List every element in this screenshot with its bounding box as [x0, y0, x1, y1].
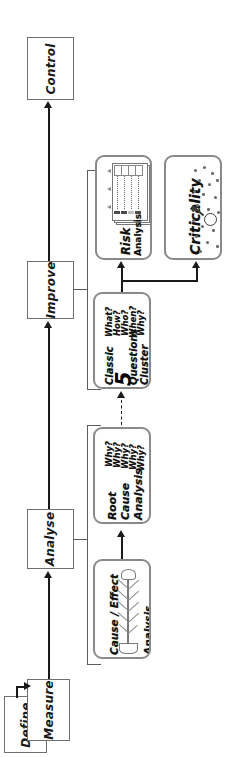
branch-line-questions-tools — [121, 280, 198, 282]
phase-box-control[interactable]: Control — [27, 37, 74, 100]
tool-label-rc-analysis: Analysis — [132, 468, 145, 520]
tool-label-ce-analysis: Analysis — [142, 606, 151, 655]
flow-arrow-improve-control — [44, 101, 52, 108]
phase-box-analyse[interactable]: Analyse — [27, 509, 74, 569]
tool-label-risk-line1: Risk — [119, 228, 133, 255]
scatter-magnifier-icon — [190, 163, 222, 255]
tool-label-questions: Questions — [128, 328, 139, 385]
analyse-bracket-spine — [87, 425, 88, 665]
improve-bracket-spine-lower — [87, 289, 88, 390]
tool-label-cause: Cause — [119, 483, 132, 520]
improve-bracket-bottom — [87, 389, 101, 390]
phase-box-measure[interactable]: Measure — [27, 679, 70, 741]
tool-card-cause-effect[interactable]: Cause / Effect Analysis — [93, 559, 151, 659]
branch-arrow-to-risk — [117, 261, 125, 268]
tool-label-root: Root — [106, 492, 119, 520]
flow-arrow-measure-analyse — [44, 571, 52, 578]
improve-bracket-stem — [73, 289, 88, 290]
diagram-canvas: Control Improve Analyse Define Measure — [0, 0, 243, 757]
flow-arrow-analyse-improve — [44, 321, 52, 328]
tool-card-root-cause[interactable]: Why? Why? Why? Why? Why? Root Cause Anal… — [93, 427, 151, 524]
branch-line-to-criticality — [196, 268, 198, 281]
flow-line-causeeffect-rootcause — [121, 537, 123, 559]
tool-card-classic-questions[interactable]: What? How? Who? When? Why? Classic 5 Que… — [93, 292, 151, 389]
phase-label-measure: Measure — [42, 680, 56, 739]
flow-arrow-causeeffect-rootcause — [117, 530, 125, 537]
branch-line-from-questions — [121, 280, 123, 292]
analyse-bracket-top — [87, 425, 101, 426]
flow-line-measure-analyse — [48, 578, 50, 679]
tool-card-risk-analysis[interactable]: Risk Analysis — [95, 155, 152, 260]
spreadsheet-matrix-icon — [110, 163, 151, 225]
dashed-arrow-rootcause-questions — [117, 391, 125, 398]
dashed-link-rootcause-questions — [121, 400, 122, 425]
tool-label-risk-line2: Analysis — [133, 214, 143, 256]
branch-arrow-to-criticality — [192, 261, 200, 268]
hook-arrow-define-measure — [24, 682, 31, 690]
phase-label-analyse: Analyse — [44, 512, 58, 567]
fishbone-diagram-icon — [115, 569, 141, 653]
flow-line-improve-control — [48, 108, 50, 261]
tool-card-criticality[interactable]: Criticality — [164, 155, 222, 260]
phase-box-improve[interactable]: Improve — [27, 261, 74, 319]
flow-line-analyse-improve — [48, 328, 50, 509]
tool-label-cluster: Cluster — [139, 345, 150, 385]
improve-bracket-spine — [87, 170, 88, 290]
analyse-bracket-stem — [73, 539, 88, 540]
phase-label-control: Control — [44, 43, 58, 94]
analyse-bracket-bottom — [87, 664, 101, 665]
phase-label-improve: Improve — [44, 261, 58, 318]
hook-line-define-vertical — [16, 686, 18, 698]
